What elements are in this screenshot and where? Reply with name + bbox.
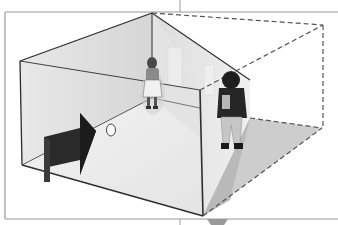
ames-room-diagram [0, 0, 338, 225]
peephole-icon [107, 124, 116, 136]
bottom-notch [207, 219, 228, 225]
